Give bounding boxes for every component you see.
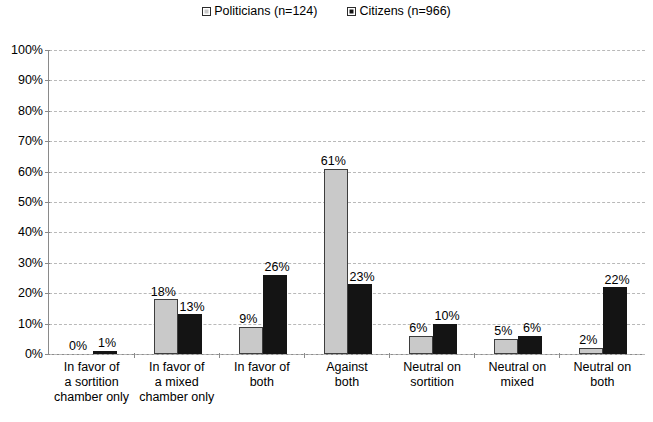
x-axis-category-line: mixed — [476, 375, 559, 390]
bar-politicians[interactable]: 6% — [409, 336, 433, 354]
bar-citizens[interactable]: 22% — [603, 287, 627, 354]
y-axis-label: 80% — [18, 105, 43, 118]
x-axis-category-line: chamber only — [50, 390, 133, 405]
bar-value-label: 0% — [69, 340, 87, 353]
x-axis-category-label: Againstboth — [304, 360, 389, 405]
bar-value-label: 9% — [239, 313, 257, 326]
y-axis-label: 50% — [18, 196, 43, 209]
bar-politicians[interactable]: 61% — [324, 169, 348, 354]
bar-value-label: 23% — [350, 271, 375, 284]
x-axis-category-line: a mixed — [135, 375, 218, 390]
x-axis-category-line: In favor of — [220, 360, 303, 375]
y-axis-label: 20% — [18, 287, 43, 300]
x-axis-category-label: In favor ofa sortitionchamber only — [49, 360, 134, 405]
x-axis-category-line: Neutral on — [391, 360, 474, 375]
bar-value-label: 10% — [435, 310, 460, 323]
bar-value-label: 6% — [409, 322, 427, 335]
bar-group: 2%22% — [560, 50, 645, 354]
x-axis-category-line: In favor of — [50, 360, 133, 375]
bar-citizens[interactable]: 13% — [178, 314, 202, 354]
gridline — [49, 354, 645, 355]
x-axis-category-line: In favor of — [135, 360, 218, 375]
bar-citizens[interactable]: 1% — [93, 351, 117, 354]
bar-group: 0%1% — [50, 50, 135, 354]
x-axis-category-line: Neutral on — [561, 360, 644, 375]
x-axis-category-line: chamber only — [135, 390, 218, 405]
y-axis-label: 60% — [18, 165, 43, 178]
bar-value-label: 26% — [265, 261, 290, 274]
bar-politicians[interactable]: 18% — [154, 299, 178, 354]
bar-value-label: 1% — [98, 337, 116, 350]
bar-group: 18%13% — [135, 50, 220, 354]
bar-value-label: 13% — [180, 301, 205, 314]
bar-citizens[interactable]: 10% — [433, 324, 457, 354]
bar-value-label: 61% — [321, 155, 346, 168]
plot-area: 100%90%80%70%60%50%40%30%20%10%0% 0%1%18… — [48, 50, 645, 355]
bar-politicians[interactable]: 9% — [239, 327, 263, 354]
x-axis-category-label: In favor ofboth — [219, 360, 304, 405]
bar-value-label: 5% — [494, 325, 512, 338]
bar-value-label: 18% — [151, 286, 176, 299]
bar-value-label: 2% — [579, 334, 597, 347]
bar-group: 5%6% — [475, 50, 560, 354]
y-axis-label: 90% — [18, 74, 43, 87]
x-axis-category-label: Neutral onboth — [560, 360, 645, 405]
y-axis-tick — [45, 354, 50, 355]
x-axis-category-label: In favor ofa mixedchamber only — [134, 360, 219, 405]
x-axis-category-label: Neutral onsortition — [390, 360, 475, 405]
y-axis-label: 10% — [18, 317, 43, 330]
x-axis-category-line: a sortition — [50, 375, 133, 390]
bar-groups: 0%1%18%13%9%26%61%23%6%10%5%6%2%22% — [50, 50, 645, 354]
x-axis-category-line: Neutral on — [476, 360, 559, 375]
bar-group: 61%23% — [305, 50, 390, 354]
bar-citizens[interactable]: 23% — [348, 284, 372, 354]
bar-politicians[interactable]: 5% — [494, 339, 518, 354]
bar-citizens[interactable]: 6% — [518, 336, 542, 354]
grouped-bar-chart: 100%90%80%70%60%50%40%30%20%10%0% 0%1%18… — [0, 0, 653, 422]
x-axis-category-line: both — [305, 375, 388, 390]
x-axis-labels: In favor ofa sortitionchamber onlyIn fav… — [49, 360, 645, 405]
x-axis-category-line: both — [561, 375, 644, 390]
bar-group: 6%10% — [390, 50, 475, 354]
y-axis-label: 40% — [18, 226, 43, 239]
x-axis-category-line: Against — [305, 360, 388, 375]
bar-politicians[interactable]: 2% — [579, 348, 603, 354]
bar-group: 9%26% — [220, 50, 305, 354]
y-axis-label: 0% — [25, 348, 43, 361]
y-axis-label: 100% — [11, 44, 43, 57]
y-axis-label: 30% — [18, 257, 43, 270]
x-axis-category-line: sortition — [391, 375, 474, 390]
y-axis-label: 70% — [18, 135, 43, 148]
bar-value-label: 22% — [605, 274, 630, 287]
bar-citizens[interactable]: 26% — [263, 275, 287, 354]
bar-value-label: 6% — [523, 322, 541, 335]
x-axis-category-line: both — [220, 375, 303, 390]
x-axis-category-label: Neutral onmixed — [475, 360, 560, 405]
